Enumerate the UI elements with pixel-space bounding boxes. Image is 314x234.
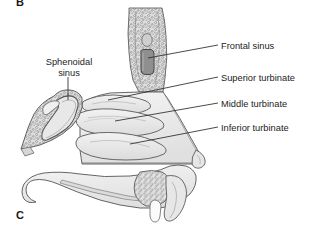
- frontal-bone-group: [128, 8, 167, 92]
- upper-lip-soft-tissue: [164, 176, 186, 222]
- incisor-tooth: [150, 200, 161, 222]
- label-inferior-turbinate: Inferior turbinate: [221, 123, 289, 134]
- label-sphenoidal-sinus-line2: sinus: [58, 68, 80, 78]
- frontal-air-cell: [142, 34, 152, 47]
- anatomy-illustration: [0, 0, 314, 234]
- panel-letter-c: C: [16, 209, 24, 221]
- label-middle-turbinate: Middle turbinate: [221, 99, 287, 110]
- label-frontal-sinus: Frontal sinus: [221, 41, 274, 52]
- label-superior-turbinate: Superior turbinate: [221, 73, 295, 84]
- palate-maxilla-group: [22, 165, 196, 222]
- panel-letter-b: B: [16, 0, 24, 8]
- figure-container: B C Frontal sinus Superior turbinate Mid…: [0, 0, 314, 234]
- nose-tip: [192, 150, 205, 168]
- label-sphenoidal-sinus: Sphenoidalsinus: [36, 57, 102, 78]
- label-sphenoidal-sinus-line1: Sphenoidal: [46, 57, 93, 67]
- sphenoid-group: [21, 90, 82, 156]
- sphenoid-posterior-spur: [21, 147, 34, 156]
